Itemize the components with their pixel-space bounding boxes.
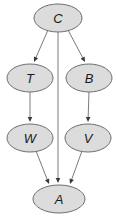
- edge-line: [68, 30, 83, 59]
- nodes-layer: CTBWVA: [7, 4, 112, 213]
- graph-node-a[interactable]: A: [33, 185, 85, 213]
- edge-c-to-b: [68, 30, 85, 62]
- edge-line: [36, 151, 48, 181]
- edge-line: [35, 30, 48, 59]
- node-label: A: [54, 192, 64, 207]
- graph-node-c[interactable]: C: [34, 4, 82, 32]
- edge-c-to-a: [56, 32, 61, 183]
- node-label: V: [84, 131, 94, 146]
- edges-layer: [28, 30, 91, 184]
- graph-node-v[interactable]: V: [65, 124, 111, 152]
- node-label: B: [85, 71, 94, 86]
- node-label: C: [53, 11, 63, 26]
- edge-t-to-w: [28, 92, 33, 122]
- edge-c-to-t: [34, 30, 48, 62]
- node-label: W: [24, 131, 38, 146]
- edge-w-to-a: [36, 151, 49, 184]
- node-label: T: [26, 71, 35, 86]
- graph-svg: CTBWVA: [0, 0, 117, 218]
- edge-line: [88, 92, 89, 119]
- graph-node-w[interactable]: W: [7, 124, 53, 152]
- edge-v-to-a: [70, 151, 82, 184]
- graph-node-b[interactable]: B: [66, 64, 112, 92]
- arrowhead-icon: [86, 117, 91, 122]
- arrowhead-icon: [56, 178, 61, 183]
- graph-node-t[interactable]: T: [7, 64, 53, 92]
- edge-b-to-v: [86, 92, 91, 122]
- arrowhead-icon: [28, 117, 33, 122]
- diagram-canvas: CTBWVA: [0, 0, 117, 218]
- arrowhead-icon: [70, 179, 74, 184]
- edge-line: [71, 151, 82, 181]
